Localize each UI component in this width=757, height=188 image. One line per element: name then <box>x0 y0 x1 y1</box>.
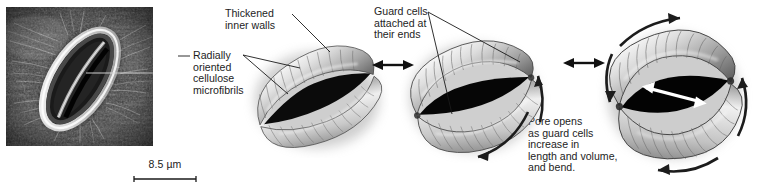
annotation-radially-oriented-microfibrils: Radially oriented cellulose microfibrils <box>193 50 244 96</box>
stoma-closed <box>243 18 389 173</box>
scale-bar-label: 8.5 µm <box>130 158 200 170</box>
scale-bar: 8.5 µm <box>130 158 200 184</box>
transition-arrow-2 <box>562 55 606 71</box>
transition-arrow-1 <box>371 57 415 73</box>
stoma-partially-open <box>400 18 552 178</box>
stoma-fully-open <box>596 10 757 182</box>
stomatal-opening-figure: 8.5 µm Thickened inner walls Radially or… <box>0 0 757 188</box>
scale-bar-rule <box>133 175 197 183</box>
sem-micrograph-stoma <box>6 7 153 146</box>
